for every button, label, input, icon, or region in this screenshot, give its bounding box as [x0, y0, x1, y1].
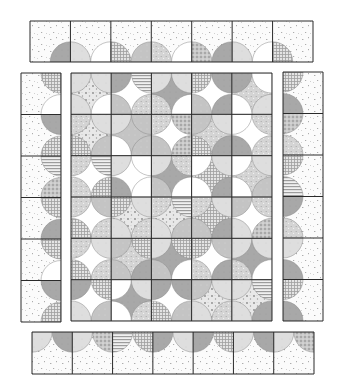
border-block — [151, 21, 191, 62]
border-block — [273, 21, 313, 62]
border-block — [153, 332, 193, 374]
border-block — [72, 332, 112, 374]
border-block — [274, 332, 314, 374]
border-block — [283, 72, 323, 114]
quilt-block — [232, 280, 272, 321]
top-border-strip — [30, 21, 313, 62]
border-block — [233, 332, 273, 374]
border-block — [21, 73, 61, 115]
quilt-block — [111, 280, 151, 321]
quilt-block — [111, 156, 151, 197]
border-block — [283, 238, 323, 280]
quilt-block — [192, 73, 232, 114]
quilt-block — [192, 156, 232, 197]
quilt-block — [111, 73, 151, 114]
border-block — [70, 21, 110, 62]
quilt-block — [151, 238, 191, 279]
quilt-block — [71, 197, 111, 238]
quilt-block — [192, 114, 232, 155]
bottom-border-strip — [32, 332, 314, 374]
quilt-block — [71, 114, 111, 155]
quilt-block — [71, 238, 111, 279]
border-block — [30, 21, 70, 62]
quilt-block — [111, 238, 151, 279]
border-block — [283, 197, 323, 239]
quilt-block — [232, 73, 272, 114]
quilt-block — [151, 73, 191, 114]
border-block — [21, 281, 61, 323]
border-block — [192, 21, 232, 62]
right-border-strip — [283, 72, 323, 321]
quilt-block — [192, 280, 232, 321]
quilt-block — [151, 197, 191, 238]
border-block — [113, 332, 153, 374]
quilt-block — [232, 238, 272, 279]
quilt-block — [232, 114, 272, 155]
quilt-block — [232, 197, 272, 238]
quilt-block — [111, 114, 151, 155]
border-block — [21, 198, 61, 240]
border-block — [283, 155, 323, 197]
border-block — [21, 156, 61, 198]
quilt-block — [71, 156, 111, 197]
quilt-block — [111, 197, 151, 238]
quilt-diagram — [0, 0, 338, 390]
quilt-block — [71, 73, 111, 114]
left-border-strip — [21, 73, 61, 322]
border-block — [32, 332, 72, 374]
border-block — [193, 332, 233, 374]
border-block — [283, 114, 323, 156]
border-block — [21, 239, 61, 281]
quilt-block — [151, 114, 191, 155]
border-block — [283, 280, 323, 322]
quilt-block — [192, 197, 232, 238]
quilt-block — [151, 280, 191, 321]
quilt-center — [71, 73, 272, 321]
quilt-block — [232, 156, 272, 197]
border-block — [232, 21, 272, 62]
border-block — [111, 21, 151, 62]
quilt-block — [192, 238, 232, 279]
border-block — [21, 115, 61, 157]
quilt-block — [71, 280, 111, 321]
quilt-block — [151, 156, 191, 197]
